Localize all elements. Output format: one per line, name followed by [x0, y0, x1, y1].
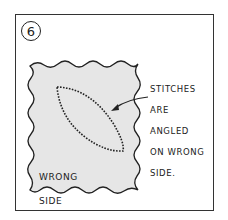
- wrong-side-line: SIDE: [39, 195, 78, 207]
- wrong-side-label: WRONG SIDE: [39, 159, 78, 219]
- callout-line: ANGLED: [150, 126, 205, 137]
- callout-text: STITCHES ARE ANGLED ON WRONG SIDE.: [150, 73, 205, 189]
- callout-line: ARE: [150, 105, 205, 116]
- callout-line: STITCHES: [150, 84, 205, 95]
- callout-line: ON WRONG: [150, 147, 205, 158]
- wrong-side-line: WRONG: [39, 171, 78, 183]
- callout-line: SIDE.: [150, 168, 205, 179]
